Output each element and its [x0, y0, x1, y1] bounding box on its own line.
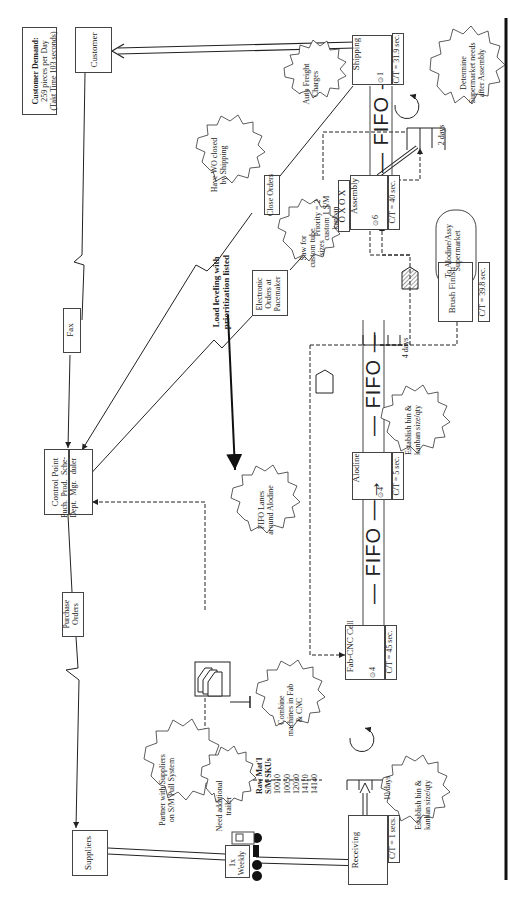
fifo-lane-fab-alodine: — FIFO —→ [362, 528, 384, 604]
fab-cnc-ct: C/T = 45 sec. [386, 626, 396, 678]
truck-frequency: 1x Weekly [229, 846, 247, 880]
kaizen-additional-trailer: Need additional trailer [216, 778, 236, 834]
alodine-ct: C/T = 5 sec. [393, 452, 403, 500]
kaizen-supermarket-needs: Determine Supermarket needs after Assemb… [460, 42, 490, 104]
shipping-ct: C/T = 31.9 sec. [393, 33, 403, 85]
kaizen-establish-bin-1: Establish bin & kanban size/qty [405, 402, 425, 458]
kaizen-fifo-lanes: FIFO Lanes around Alodine [258, 482, 278, 538]
fifo-lane-alodine-sm: — FIFO — [362, 360, 384, 436]
kaizen-combine-machines: Combine machines in Fab & CNC [278, 680, 298, 740]
customer-demand-line2: (Takt Time 103 seconds) [49, 31, 58, 110]
assembly-label: Assembly [350, 172, 362, 220]
shipping-operators: ☺1 [377, 70, 387, 86]
cell-prod-mgr: Prod. Mgr. [61, 477, 83, 499]
cell-scheduler: Sche- duler [61, 455, 83, 477]
customer-demand-title: Customer Demand: [31, 37, 40, 104]
shipping-label: Shipping [352, 32, 364, 76]
raw-material-list: Raw Mat'l S/M SKUs 10010 10050 12030 141… [255, 738, 327, 794]
kaizen-partner-suppliers: Partner with Suppliers on S/M Pull Syste… [159, 753, 179, 827]
kaizen-auto-freight: Auto Freight Charges [303, 60, 323, 108]
supermarket-target: To Alodine/Assy Supermarket [445, 217, 467, 285]
supermarket-2days: 2 days [438, 120, 448, 150]
brush-finish-ct: C/T = 39.8 sec. [479, 265, 489, 319]
fab-cnc-operators: ☺4 [369, 665, 379, 681]
assembly-operators: ☺6 [372, 213, 382, 229]
customer-demand-line1: 259 pieces per Day [40, 40, 49, 102]
load-leveling-note: Load leveling with prioritization listed [212, 242, 236, 342]
receiving-label: Receiving [351, 825, 363, 875]
electronic-orders-label: Electronic Orders at Pacemaker [256, 272, 284, 316]
receiving-ct: C/T = 1 secs. [389, 814, 399, 862]
fifo-lane-assembly-shipping: — FIFO —→ [370, 101, 392, 173]
fax-label: Fax [66, 305, 78, 355]
customer-label: Customer [90, 20, 102, 80]
customer-demand-text: Customer Demand: 259 pieces per Day (Tak… [32, 27, 48, 115]
close-orders-label: Close Orders [267, 173, 277, 217]
kaizen-wo-closed: Have WO closed by Shipping [211, 137, 231, 193]
assembly-ct: C/T = 40 sec. [389, 177, 399, 227]
supermarket-10days: 10 days [384, 771, 394, 805]
cell-purch-dept: Puch. Dept. [61, 498, 83, 520]
fab-cnc-label: Fab-CNC Cell [346, 616, 358, 676]
supermarket-4days: 4 days [402, 333, 412, 363]
suppliers-label: Suppliers [84, 825, 96, 881]
kaizen-establish-bin-2: Establish bin & kanban size/qty [415, 777, 435, 833]
kaizen-saw-custom: Saw for custom tube sizes [300, 224, 320, 272]
purchase-orders-label: Purchase Orders [63, 589, 83, 639]
